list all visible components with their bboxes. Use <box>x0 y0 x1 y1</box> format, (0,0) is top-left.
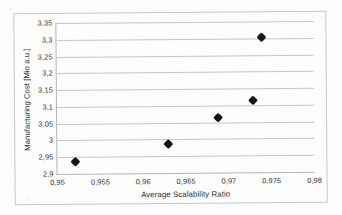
y-axis-tick-label: 2,95 <box>39 153 54 162</box>
x-axis-tick-label: 0,975 <box>262 176 281 185</box>
gridline <box>57 138 314 141</box>
x-axis-tick-label: 0,97 <box>221 176 236 185</box>
x-axis-title: Average Scalability Ratio <box>57 189 315 200</box>
gridline <box>56 21 313 24</box>
gridline <box>57 54 314 57</box>
y-axis-tick-label: 3,2 <box>42 69 53 78</box>
data-point <box>70 157 80 167</box>
gridline <box>57 105 314 108</box>
y-axis-tick-label: 3,15 <box>38 86 53 95</box>
gridline <box>57 88 314 91</box>
gridline <box>57 155 314 158</box>
plot-area: 2,92,9533,053,13,153,23,253,33,35 0,950,… <box>55 21 314 175</box>
x-axis-tick-label: 0,95 <box>50 178 65 187</box>
data-point <box>248 95 258 105</box>
data-point <box>256 33 266 43</box>
x-axis-tick-label: 0,98 <box>307 176 322 185</box>
x-axis-tick-label: 0,955 <box>91 177 110 186</box>
chart-frame: Manufacturing Cost [Mio a.u.] 2,92,9533,… <box>13 11 327 205</box>
scanned-page-background: Manufacturing Cost [Mio a.u.] 2,92,9533,… <box>0 0 342 215</box>
gridline <box>56 38 313 41</box>
y-axis-tick-label: 3 <box>49 136 53 145</box>
y-axis-tick-label: 3,3 <box>42 35 53 44</box>
gridline-group <box>56 21 313 23</box>
gridline <box>57 122 314 125</box>
y-axis-title: Manufacturing Cost [Mio a.u.] <box>20 23 33 175</box>
y-axis-tick-label: 3,1 <box>42 102 53 111</box>
y-axis-tick-label: 3,05 <box>38 119 53 128</box>
y-axis-tick-label: 3,25 <box>38 52 53 61</box>
y-axis-tick-label: 3,35 <box>37 18 52 27</box>
x-axis-tick-label: 0,965 <box>177 177 196 186</box>
gridline <box>57 71 314 74</box>
y-axis-title-label: Manufacturing Cost [Mio a.u.] <box>22 48 32 150</box>
data-point <box>163 140 173 150</box>
x-axis-tick-label: 0,96 <box>136 177 151 186</box>
